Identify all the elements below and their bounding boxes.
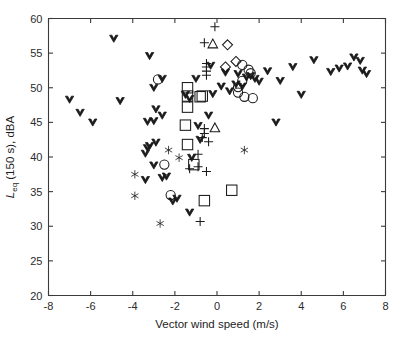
data-point-star6 [131,192,138,200]
data-point-vee [110,35,118,42]
data-point-vee [192,75,200,82]
data-point-vee [204,112,212,119]
data-point-plus [202,71,211,80]
data-point-vee [145,53,153,60]
y-axis-tick-label: 55 [30,47,42,59]
data-point-circle [160,160,169,169]
data-point-plus [194,150,203,159]
data-point-square [180,120,190,130]
data-point-vee [141,150,149,157]
data-point-vee [225,88,233,95]
data-point-star6 [156,219,163,227]
data-point-vee [141,176,149,183]
data-point-triangle [210,123,220,132]
data-point-square [182,102,192,112]
data-point-vee [185,209,193,216]
x-axis-tick-label: -4 [128,300,138,312]
x-axis-tick-label: 2 [256,300,262,312]
data-point-square [197,91,207,101]
data-point-plus [200,129,209,138]
figure-scatter-plot: -8-6-4-202468202530354045505560Vector wi… [0,0,406,343]
data-point-vee [263,68,271,75]
data-point-plus [185,164,194,173]
data-point-plus [210,22,219,31]
x-axis-title: Vector wind speed (m/s) [155,318,279,330]
data-point-star6 [165,146,172,154]
y-axis-title: Leq (150 s), dBA [4,115,19,198]
plot-canvas: -8-6-4-202468202530354045505560Vector wi… [0,0,406,343]
data-point-star6 [131,170,138,178]
data-point-vee [272,119,280,126]
data-point-vee [343,63,351,70]
data-point-vee [150,84,158,91]
data-point-vee [76,109,84,116]
data-point-star6 [241,146,248,154]
x-axis-tick-label: -2 [170,300,180,312]
y-axis-tick-label: 20 [30,290,42,302]
data-point-circle [238,60,247,69]
data-point-vee [65,96,73,103]
data-point-vee [116,98,124,105]
data-point-vee [335,65,343,72]
data-point-circle [240,92,249,101]
x-axis-tick-label: -8 [44,300,54,312]
data-point-plus [204,137,213,146]
data-point-vee [209,91,217,98]
data-point-diamond [223,40,233,50]
data-point-vee [89,119,97,126]
y-axis-tick-label: 40 [30,151,42,163]
data-point-square [199,195,209,205]
data-point-square [182,139,192,149]
data-point-vee [221,69,229,76]
data-point-triangle [208,39,218,48]
data-point-vee [362,71,370,78]
x-axis-tick-label: 4 [298,300,304,312]
y-axis-tick-label: 30 [30,220,42,232]
data-point-vee [356,57,364,64]
y-axis-tick-label: 50 [30,82,42,94]
data-point-vee [327,68,335,75]
data-point-plus [202,167,211,176]
data-point-vee [255,78,263,85]
data-point-vee [289,64,297,71]
data-point-circle [248,94,257,103]
data-point-vee [150,118,158,125]
data-point-vee [158,112,166,119]
x-axis-tick-label: -6 [86,300,96,312]
data-point-square [227,185,237,195]
data-point-plus [196,217,205,226]
data-point-star6 [175,153,182,161]
y-axis-tick-label: 35 [30,186,42,198]
y-axis-tick-label: 25 [30,255,42,267]
data-point-square [195,92,205,102]
data-point-vee [310,57,318,64]
x-axis-tick-label: 8 [382,300,388,312]
data-point-vee [217,83,225,90]
x-axis-tick-label: 6 [340,300,346,312]
y-axis-tick-label: 45 [30,116,42,128]
y-axis-title-label: Leq (150 s), dBA [4,115,19,198]
data-point-vee [150,162,158,169]
y-axis-tick-label: 60 [30,13,42,25]
x-axis-tick-label: 0 [214,300,220,312]
axis-box [49,19,386,296]
data-point-circle [233,88,242,97]
data-point-vee [276,77,284,84]
data-point-plus [200,38,209,47]
data-point-vee [297,91,305,98]
